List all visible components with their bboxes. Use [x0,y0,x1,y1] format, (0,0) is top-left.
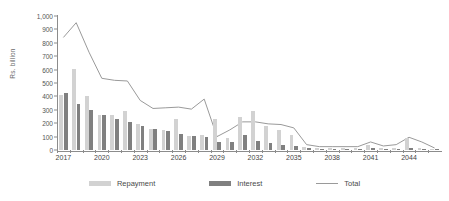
bar-repayment [149,129,153,150]
bar-repayment [238,117,242,151]
x-axis-tick-label: 2023 [132,154,148,161]
bar-repayment [328,148,332,150]
legend-label: Total [344,179,360,188]
bar-repayment [200,135,204,150]
bar-repayment [174,119,178,150]
bar-interest [435,149,439,150]
bar-repayment [98,115,102,150]
x-axis-tick-mark [211,150,212,153]
legend-label: Interest [237,179,262,188]
x-axis-tick-mark [95,150,96,153]
x-axis-tick-mark [185,150,186,153]
bar-interest [166,131,170,150]
bar-repayment [354,148,358,150]
y-axis-tick-mark [54,96,57,97]
x-axis-tick-mark [159,150,160,153]
bar-repayment [123,111,127,150]
legend-item[interactable]: Repayment [89,179,155,188]
bar-repayment [72,69,76,150]
bar-repayment [277,130,281,150]
x-axis-tick-mark [428,150,429,153]
bar-interest [358,149,362,150]
bar-interest [294,146,298,150]
bar-repayment [59,95,63,150]
legend-swatch-int-icon [209,181,231,186]
x-axis-tick-mark [377,150,378,153]
bar-interest [217,142,221,150]
x-axis-tick-mark [83,150,84,153]
x-axis-tick-label: 2032 [248,154,264,161]
legend-item[interactable]: Interest [209,179,262,188]
x-axis-tick-mark [313,150,314,153]
legend-item[interactable]: Total [316,179,360,188]
x-axis-tick-mark [70,150,71,153]
bar-repayment [392,148,396,150]
bar-interest [102,115,106,150]
x-axis-tick-mark [351,150,352,153]
bar-interest [281,145,285,150]
bar-interest [192,136,196,150]
x-axis-tick-mark [262,150,263,153]
bar-repayment [405,138,409,150]
y-axis-tick-mark [54,83,57,84]
bar-interest [153,129,157,150]
bar-interest [422,149,426,150]
x-axis-tick-label: 2020 [94,154,110,161]
bar-repayment [341,148,345,150]
x-axis-tick-mark [134,150,135,153]
bar-repayment [110,115,114,150]
x-axis-tick-label: 2038 [324,154,340,161]
bar-interest [320,149,324,150]
bar-interest [243,135,247,150]
x-axis-tick-mark [236,150,237,153]
bar-interest [384,149,388,150]
plot-area: 01002003004005006007008009001,0002017202… [57,16,441,150]
x-axis-tick-mark [172,150,173,153]
chart-legend: RepaymentInterestTotal [0,176,449,190]
x-axis-tick-mark [364,150,365,153]
bar-interest [409,148,413,150]
y-axis-tick-mark [54,56,57,57]
x-axis-tick-mark [287,150,288,153]
x-axis-tick-label: 2017 [56,154,72,161]
bar-repayment [315,148,319,150]
bar-interest [345,149,349,150]
bar-interest [141,126,145,150]
y-axis-tick-mark [54,16,57,17]
bar-interest [179,134,183,150]
bar-repayment [264,126,268,150]
x-axis-tick-mark [415,150,416,153]
bar-interest [128,122,132,150]
bar-repayment [85,96,89,150]
y-axis-tick-mark [54,42,57,43]
x-axis-tick-label: 2026 [171,154,187,161]
x-axis-tick-mark [121,150,122,153]
x-axis-tick-mark [147,150,148,153]
bar-interest [333,149,337,150]
bar-interest [205,137,209,150]
bar-repayment [226,138,230,150]
bar-interest [269,143,273,150]
total-line-path [63,23,434,148]
chart-container: Rs. billion 0100200300400500600700800900… [0,0,449,201]
bar-interest [307,148,311,150]
bar-interest [256,141,260,150]
bar-repayment [366,145,370,150]
x-axis-tick-mark [300,150,301,153]
x-axis-tick-mark [326,150,327,153]
bar-repayment [302,147,306,150]
bar-repayment [136,124,140,150]
bar-interest [89,110,93,150]
bar-repayment [379,148,383,150]
bar-repayment [418,148,422,150]
y-axis-tick-mark [54,123,57,124]
y-axis-title: Rs. billion [9,34,16,94]
x-axis-tick-mark [57,150,58,153]
x-axis-tick-label: 2044 [401,154,417,161]
bar-interest [230,142,234,150]
bar-interest [115,119,119,150]
bar-repayment [162,130,166,150]
y-axis-tick-mark [54,136,57,137]
x-axis-tick-mark [403,150,404,153]
bar-interest [77,104,81,150]
